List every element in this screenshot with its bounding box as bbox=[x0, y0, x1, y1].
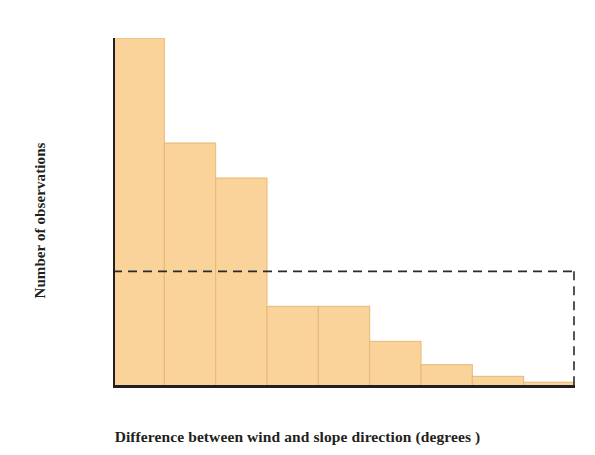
histogram-bar bbox=[113, 38, 164, 388]
y-axis-title: Number of observations bbox=[32, 96, 49, 346]
histogram-bar bbox=[421, 365, 472, 388]
histogram-bar bbox=[164, 143, 215, 388]
bars-group bbox=[113, 38, 575, 388]
plot-area: 102030020406080100120140160 bbox=[113, 38, 575, 388]
x-axis-title: Difference between wind and slope direct… bbox=[0, 428, 595, 446]
histogram-bar bbox=[267, 306, 318, 388]
histogram-bar bbox=[216, 178, 267, 388]
chart-canvas: 102030020406080100120140160 bbox=[113, 38, 575, 388]
histogram-figure: Number of observations 10203002040608010… bbox=[0, 0, 595, 455]
histogram-bar bbox=[370, 341, 421, 388]
histogram-bar bbox=[318, 306, 369, 388]
